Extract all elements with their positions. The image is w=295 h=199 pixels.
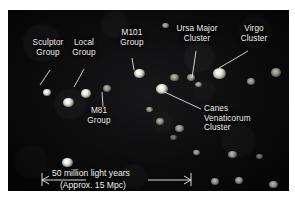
galaxy-blob <box>170 74 179 82</box>
sculptor-group-label-line1: Sculptor <box>33 38 64 47</box>
m101-group-label: M101 Group <box>109 28 155 47</box>
galaxy-blob <box>187 74 195 81</box>
galaxy-blob <box>256 154 263 160</box>
canes-label-line3: Cluster <box>204 123 231 132</box>
ursa-major-cluster-label-line2: Cluster <box>184 34 211 43</box>
ursa-major-cluster-label-line1: Ursa Major <box>176 24 217 33</box>
virgo-cluster-label-line1: Virgo <box>244 24 263 33</box>
galaxy-blob <box>146 107 153 113</box>
sky-frame: Sculptor Group Local Group M101 Group Ur… <box>8 10 289 191</box>
galaxy-blob <box>213 68 226 79</box>
canes-venaticorum-cluster-label: Canes Venaticorum Cluster <box>204 104 251 133</box>
galaxy-blob <box>269 181 278 189</box>
galaxy-blob <box>134 69 145 78</box>
galaxy-map-figure: Sculptor Group Local Group M101 Group Ur… <box>0 0 295 199</box>
galaxy-blob <box>235 177 243 184</box>
m101-group-label-line1: M101 <box>122 28 143 37</box>
galaxy-blob <box>62 158 73 167</box>
sculptor-group-label-line2: Group <box>36 48 59 57</box>
scale-bar-primary-text: 50 million light years <box>52 168 130 179</box>
galaxy-blob <box>271 68 281 77</box>
galaxy-blob <box>170 135 177 141</box>
galaxy-blob <box>103 85 111 92</box>
galaxy-blob <box>81 89 91 98</box>
scale-bar-secondary-text: (Approx. 15 Mpc) <box>60 180 126 191</box>
m81-group-label: M81 Group <box>76 106 122 125</box>
canes-label-line1: Canes <box>204 104 228 113</box>
local-group-label-line1: Local <box>74 38 94 47</box>
galaxy-blob <box>211 178 219 185</box>
galaxy-blob <box>228 151 237 159</box>
galaxy-blob <box>43 89 51 96</box>
galaxy-blob <box>156 118 164 125</box>
virgo-cluster-label: Virgo Cluster <box>230 24 278 43</box>
galaxy-blob <box>175 125 184 133</box>
galaxy-blob <box>193 150 200 156</box>
galaxy-blob <box>247 78 255 85</box>
local-group-label: Local Group <box>60 38 108 57</box>
virgo-cluster-label-line2: Cluster <box>241 34 268 43</box>
ursa-major-cluster-label: Ursa Major Cluster <box>164 24 230 43</box>
galaxy-blob <box>63 98 74 107</box>
m81-group-label-line1: M81 <box>91 106 107 115</box>
galaxy-blob <box>195 82 202 88</box>
m81-group-label-line2: Group <box>87 116 110 125</box>
local-group-label-line2: Group <box>72 48 95 57</box>
m101-group-label-line2: Group <box>120 38 143 47</box>
canes-label-line2: Venaticorum <box>204 114 251 123</box>
